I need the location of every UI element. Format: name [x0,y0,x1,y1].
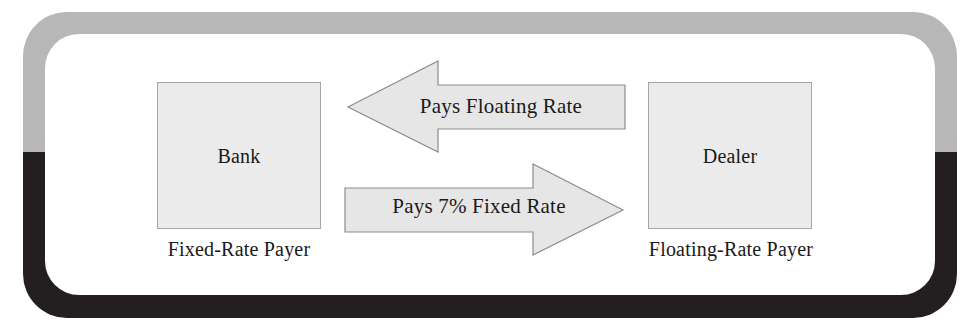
node-bank-caption: Fixed-Rate Payer [117,238,361,261]
node-dealer: Dealer [648,82,812,229]
diagram-canvas: Bank Fixed-Rate Payer Dealer Floating-Ra… [0,0,970,336]
flow-label-floating: Pays Floating Rate [370,94,632,119]
node-dealer-label: Dealer [649,144,811,167]
node-bank-label: Bank [158,144,320,167]
flow-label-fixed: Pays 7% Fixed Rate [348,194,610,219]
node-bank: Bank [157,82,321,229]
node-dealer-caption: Floating-Rate Payer [600,238,862,261]
